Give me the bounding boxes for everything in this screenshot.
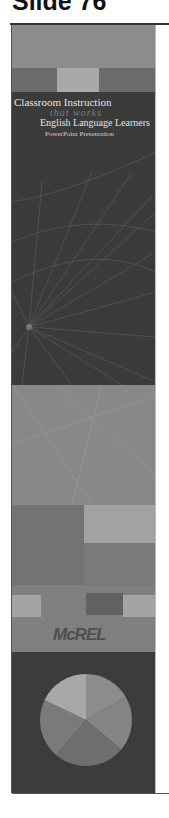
slide-number-label: Slide 76 (12, 0, 107, 16)
subtitle: PowerPoint Presentation (45, 131, 114, 138)
mosaic-block-light (84, 505, 156, 543)
dark-panel: Classroom Instruction that works English… (12, 92, 156, 385)
slide-thumbnail[interactable]: Classroom Instruction that works English… (11, 25, 156, 793)
logo-band-tile-center (86, 593, 123, 615)
mcrel-logo: McREL (53, 625, 106, 645)
logo-band-tile-right (123, 595, 156, 617)
mosaic-block-stripe (84, 543, 156, 585)
mid-panel (12, 385, 156, 505)
thumbnail-edge (155, 25, 156, 793)
color-strip-highlight (57, 68, 99, 92)
logo-band-tile-left (12, 595, 41, 617)
mosaic-block-dark (12, 505, 84, 585)
bottom-divider (12, 793, 169, 794)
pie-panel (12, 652, 156, 793)
pie-chart-graphic (12, 652, 156, 793)
title-line-3: English Language Learners (40, 118, 150, 128)
top-band (12, 25, 156, 68)
mid-panel-lines (12, 385, 156, 505)
